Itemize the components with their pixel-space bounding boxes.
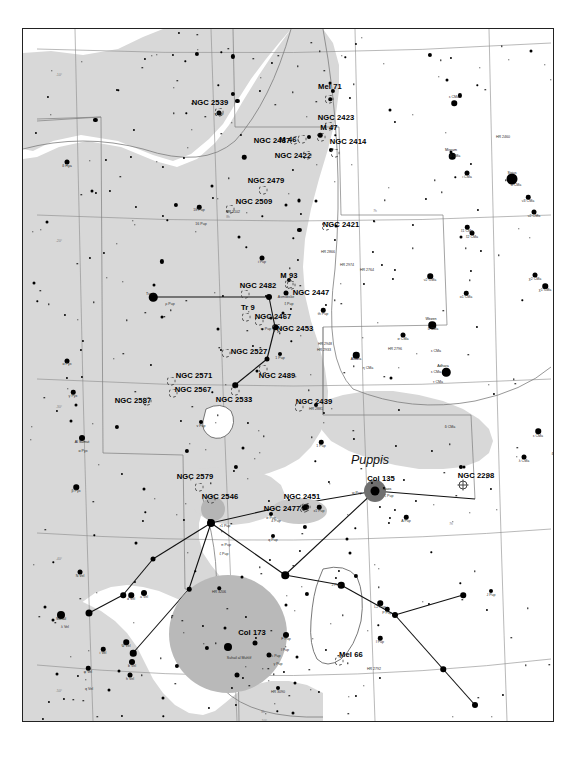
star-marker	[446, 78, 449, 81]
figure-line	[395, 595, 463, 615]
star-name-label: HR 3206	[212, 590, 226, 594]
globular-cluster-icon	[459, 481, 468, 490]
star-name-label: β CMa	[450, 154, 461, 158]
star-name-label: k Pup	[268, 316, 277, 320]
coordinate-tick-label: -50°	[261, 719, 267, 722]
chart-frame: NGC 2539Mel 71NGC 2423M 47M 46NGC 2437NG…	[22, 28, 554, 722]
star-marker	[265, 357, 270, 362]
star-name-label: Al Sumut	[75, 440, 90, 444]
star-marker	[216, 327, 219, 330]
star-marker	[294, 681, 297, 684]
star-name-label: HR 3090	[271, 690, 285, 694]
star-name-label: π Pup	[221, 543, 231, 547]
star-marker	[237, 235, 240, 238]
star-name-label: ο1 CMa	[460, 295, 473, 299]
star-marker	[462, 465, 465, 468]
star-name-label: L2 Pup	[374, 605, 385, 609]
star-name-label: 16 Pup	[195, 222, 206, 226]
star-name-label: γ Pyx	[69, 394, 78, 398]
star-marker	[32, 282, 35, 285]
star-name-label: h Vel	[126, 677, 134, 681]
star-name-label: HR 2792	[367, 667, 381, 671]
star-marker	[346, 538, 349, 541]
star-name-label: Aludra	[351, 357, 361, 361]
dso-label: NGC 2447	[293, 288, 330, 297]
dso-label: NGC 2298	[458, 471, 495, 480]
figure-line	[153, 523, 211, 559]
star-marker	[51, 619, 54, 622]
dso-label: NGC 2482	[240, 281, 277, 290]
figure-line	[123, 559, 153, 595]
open-cluster-icon	[317, 133, 326, 142]
star-name-label: α Pyx	[78, 449, 87, 453]
star-name-label: λ CMa	[519, 459, 529, 463]
open-cluster-icon	[290, 136, 299, 145]
star-name-label: J Pup	[331, 583, 340, 587]
coordinate-tick-label: -50°	[56, 689, 62, 693]
star-name-label: χ2 CMa	[529, 277, 541, 281]
star-marker	[297, 200, 300, 203]
star-name-label: χ1 CMa	[539, 288, 551, 292]
star-name-label: 1 Pup	[316, 444, 325, 448]
star-name-label: δ CMa	[445, 425, 456, 429]
star-name-label: P Pup	[382, 611, 392, 615]
star-name-label: ν2 CMa	[528, 214, 540, 218]
star-name-label: A Pup	[401, 519, 411, 523]
star-marker	[442, 368, 451, 377]
open-cluster-icon	[222, 349, 231, 358]
star-name-label: β Pyx	[71, 489, 80, 493]
star-name-label: ε CMa	[431, 349, 441, 353]
dso-label: NGC 2422	[275, 151, 312, 160]
star-name-label: ξ Pup	[284, 302, 293, 306]
dso-label: NGC 2423	[318, 113, 355, 122]
star-name-label: Adhara	[437, 364, 449, 368]
dso-label: NGC 2546	[202, 492, 239, 501]
star-marker	[371, 487, 380, 496]
star-name-label: HR 2460	[496, 135, 510, 139]
dso-label: NGC 2587	[115, 396, 152, 405]
star-name-label: v Pup	[196, 424, 205, 428]
star-marker	[142, 487, 145, 490]
star-name-label: HR 2796	[388, 347, 402, 351]
figure-line	[89, 595, 123, 613]
star-marker	[224, 627, 227, 630]
star-marker	[389, 376, 392, 379]
star-chart-page: NGC 2539Mel 71NGC 2423M 47M 46NGC 2437NG…	[0, 0, 575, 763]
dso-label: NGC 2437	[254, 136, 291, 145]
star-marker	[253, 641, 258, 646]
star-name-label: d Vel	[127, 597, 135, 601]
star-marker	[56, 673, 59, 676]
star-name-label: l Pup	[376, 640, 384, 644]
star-marker	[210, 185, 213, 188]
star-marker	[460, 236, 463, 239]
star-marker	[284, 203, 287, 206]
star-marker	[242, 155, 247, 160]
open-cluster-icon	[241, 290, 250, 299]
star-name-label: Suhail	[56, 617, 66, 621]
star-name-label: b Vel	[128, 664, 136, 668]
star-name-label: q Pup	[268, 538, 277, 542]
star-name-label: τ CMa	[433, 380, 443, 384]
coordinate-tick-label: 7h	[449, 522, 453, 526]
star-name-label: δ Hya	[62, 164, 71, 168]
coordinate-tick-label: -30°	[56, 405, 62, 409]
constellation-name-label: Puppis	[351, 453, 389, 467]
coordinate-tick-label: 7h	[373, 209, 377, 213]
star-marker	[295, 656, 298, 659]
star-name-label: ε CMa	[449, 95, 459, 99]
star-name-label: δ Col	[552, 452, 554, 456]
dso-label: NGC 2539	[192, 98, 229, 107]
star-name-label: c Pup	[271, 654, 280, 658]
star-name-label: ζ Pup	[385, 494, 394, 498]
star-name-label: λ Vel	[61, 625, 69, 629]
star-marker	[120, 592, 126, 598]
dso-label: NGC 2571	[176, 371, 213, 380]
star-marker	[130, 650, 137, 657]
star-marker	[315, 199, 318, 202]
star-name-label: J Pup	[486, 593, 495, 597]
star-name-label: ξ1 CMa	[461, 229, 473, 233]
star-marker	[46, 220, 49, 223]
star-marker	[284, 603, 287, 606]
star-name-label: 1 Pup	[275, 356, 284, 360]
dso-label: NGC 2579	[177, 472, 214, 481]
